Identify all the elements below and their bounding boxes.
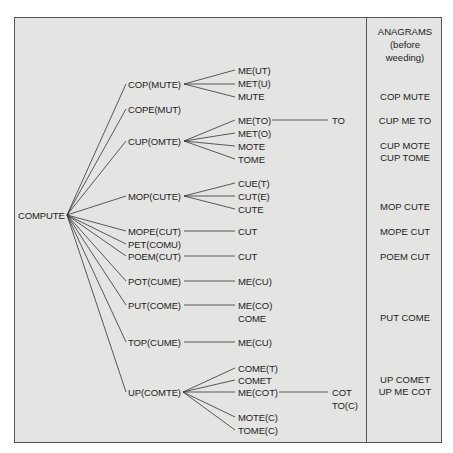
anagram-item: UP COMET [367, 374, 443, 386]
node-l2: MOTE [238, 141, 265, 152]
node-root: COMPUTE [18, 210, 65, 221]
node-l2: MET(O) [238, 128, 271, 139]
node-l1: PUT(COME) [128, 300, 181, 311]
anagram-item: CUP MOTE [367, 140, 443, 152]
node-l2: ME(CO) [238, 300, 272, 311]
node-l1: MOP(CUTE) [128, 191, 181, 202]
anagram-item: CUP TOME [367, 152, 443, 164]
node-l1: CUP(OMTE) [128, 136, 181, 147]
node-l2: ME(UT) [238, 65, 271, 76]
node-l2: MET(U) [238, 78, 271, 89]
node-l2: COME [238, 313, 266, 324]
anagram-item: MOPE CUT [367, 226, 443, 238]
node-l2: CUT [238, 251, 257, 262]
node-l1: PET(COMU) [128, 239, 181, 250]
node-l1: COP(MUTE) [128, 79, 181, 90]
node-l1: UP(COMTE) [128, 387, 181, 398]
node-l2: TOME [238, 154, 265, 165]
node-l1: POEM(CUT) [128, 251, 181, 262]
anagram-item: POEM CUT [367, 251, 443, 263]
node-l2: ME(CU) [238, 337, 272, 348]
node-l3: TO(C) [332, 400, 358, 411]
node-l2: CUT [238, 226, 257, 237]
anagram-item: UP ME COT [367, 386, 443, 398]
anagram-item: MOP CUTE [367, 201, 443, 213]
node-l2: COME(T) [238, 363, 278, 374]
node-l1: COPE(MUT) [128, 104, 181, 115]
anagram-item: COP MUTE [367, 91, 443, 103]
node-l2: CUTE [238, 204, 263, 215]
anagrams-header-line: ANAGRAMS [367, 25, 443, 38]
anagrams-header: ANAGRAMS (before weeding) [367, 25, 443, 64]
node-l2: TOME(C) [238, 425, 278, 436]
anagram-item: CUP ME TO [367, 115, 443, 127]
node-l3: TO [332, 115, 345, 126]
node-l1: POT(CUME) [128, 276, 181, 287]
node-l2: CUT(E) [238, 191, 270, 202]
node-l2: ME(TO) [238, 115, 271, 126]
anagrams-header-line: weeding) [367, 51, 443, 64]
anagrams-header-line: (before [367, 38, 443, 51]
node-l1: MOPE(CUT) [128, 226, 181, 237]
anagram-item: PUT COME [367, 312, 443, 324]
node-l2: MOTE(C) [238, 412, 278, 423]
node-l3: COT [332, 387, 352, 398]
node-l2: ME(CU) [238, 276, 272, 287]
node-l2: CUE(T) [238, 178, 270, 189]
node-l2: ME(COT) [238, 387, 278, 398]
node-l2: COMET [238, 375, 272, 386]
node-l2: MUTE [238, 91, 265, 102]
node-l1: TOP(CUME) [128, 337, 181, 348]
